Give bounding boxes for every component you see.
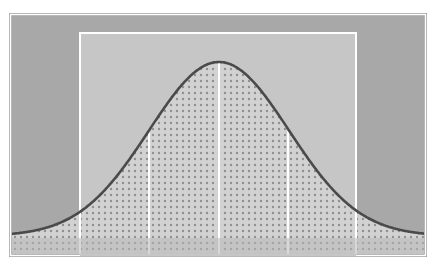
normal-distribution-graphic bbox=[0, 0, 437, 264]
bell-curve-diagram bbox=[0, 0, 437, 264]
baseline-strip bbox=[12, 238, 424, 256]
